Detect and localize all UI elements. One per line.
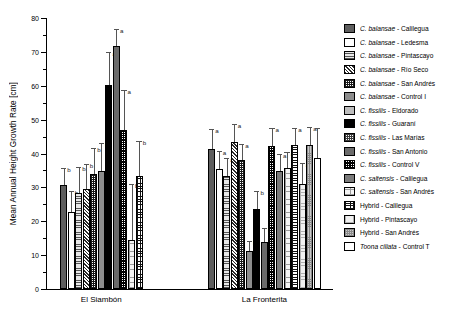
error-bar-cap <box>284 152 289 153</box>
significance-letter: b <box>97 147 100 153</box>
error-bar <box>64 168 65 185</box>
legend-swatch-icon <box>344 174 355 183</box>
error-bar <box>94 148 95 174</box>
error-bar-cap <box>315 128 320 129</box>
bar <box>291 145 298 289</box>
significance-letter: a <box>223 150 226 156</box>
legend-item: C. balansae - Río Seco <box>344 63 456 77</box>
error-bar <box>264 228 265 242</box>
bar <box>216 169 223 289</box>
legend-item: C. saltensis - Calilegua <box>344 172 456 186</box>
bar <box>75 193 82 289</box>
error-bar-cap <box>106 52 111 53</box>
error-bar <box>124 90 125 130</box>
legend-item: Toona ciliata - Control T <box>344 240 456 254</box>
legend-item-label: C. balansae - Calilegua <box>360 25 429 32</box>
chart-figure: Mean Annual Height Growth Rate [cm] 0102… <box>0 0 459 329</box>
legend-item: C. saltensis - San Andrés <box>344 185 456 199</box>
error-bar <box>280 154 281 171</box>
bar <box>276 171 283 289</box>
legend-swatch-icon <box>344 79 355 88</box>
bar <box>105 85 112 289</box>
error-bar-cap <box>84 164 89 165</box>
legend-swatch-icon <box>344 65 355 74</box>
legend-item-label: C. fissilis - San Antonio <box>360 148 427 155</box>
bar <box>238 160 245 289</box>
legend-item-label: C. fissilis - Las Marías <box>360 134 425 141</box>
error-bar-cap <box>232 124 237 125</box>
y-tick-label-40: 40 <box>31 150 39 157</box>
significance-letter: a <box>245 143 248 149</box>
error-bar-cap <box>91 148 96 149</box>
x-axis-label-0: El Siambón <box>81 295 122 304</box>
legend-item: C. balansae - Calilegua <box>344 22 456 36</box>
legend-item-label: Hybrid - San Andrés <box>360 229 419 236</box>
error-bar-cap <box>262 228 267 229</box>
legend-item: Hybrid - Pintascayo <box>344 212 456 226</box>
bar <box>128 240 135 289</box>
significance-letter: a <box>298 127 301 133</box>
legend-item-label: C. fissilis - Control V <box>360 161 419 168</box>
error-bar-cap <box>129 184 134 185</box>
error-bar-cap <box>239 144 244 145</box>
error-bar-cap <box>99 143 104 144</box>
bar <box>261 242 268 289</box>
legend-item-label: C. balansae - Control I <box>360 93 426 100</box>
error-bar-cap <box>307 127 312 128</box>
bar <box>268 146 275 289</box>
error-bar-cap <box>269 128 274 129</box>
bar <box>83 189 90 289</box>
error-bar <box>116 29 117 46</box>
y-tick-label-0: 0 <box>35 286 39 293</box>
error-bar <box>249 241 250 251</box>
y-tick-label-10: 10 <box>31 252 39 259</box>
bar-series-layer: bbbbbbaaabbaaaaabbbaaaaaa <box>46 18 333 289</box>
bar <box>98 171 105 289</box>
error-bar-cap <box>61 168 66 169</box>
legend-item: C. fissilis - Control V <box>344 158 456 172</box>
x-axis-label-1: La Fronterita <box>242 295 287 304</box>
bar <box>60 185 67 289</box>
significance-letter: b <box>90 163 93 169</box>
bar <box>120 130 127 289</box>
legend-swatch-icon <box>344 242 355 251</box>
error-bar <box>302 163 303 184</box>
y-tick-0 <box>41 289 46 290</box>
error-bar-cap <box>254 191 259 192</box>
error-bar <box>109 52 110 85</box>
significance-letter: b <box>260 190 263 196</box>
error-bar <box>287 152 288 168</box>
legend-item: C. balansae - Ledesma <box>344 36 456 50</box>
significance-letter: a <box>276 127 279 133</box>
significance-letter: a <box>283 153 286 159</box>
error-bar-cap <box>76 167 81 168</box>
legend-item: C. fissilis - Guaraní <box>344 117 456 131</box>
error-bar <box>295 128 296 145</box>
error-bar-cap <box>292 128 297 129</box>
legend-item-label: Hybrid - Calilegua <box>360 202 412 209</box>
legend-item-label: C. saltensis - San Andrés <box>360 188 434 195</box>
error-bar <box>101 143 102 171</box>
legend-swatch-icon <box>344 228 355 237</box>
error-bar <box>227 158 228 176</box>
bar <box>306 145 313 289</box>
y-tick-label-70: 70 <box>31 48 39 55</box>
significance-letter: a <box>120 28 123 34</box>
significance-letter: a <box>215 128 218 134</box>
y-axis-title: Mean Annual Height Growth Rate [cm] <box>6 18 20 290</box>
legend-swatch-icon <box>344 92 355 101</box>
x-axis-line <box>46 289 333 290</box>
legend-item: Hybrid - San Andrés <box>344 226 456 240</box>
legend-item-label: Hybrid - Pintascayo <box>360 216 417 223</box>
legend-item-label: C. balansae - San Andrés <box>360 80 435 87</box>
error-bar-cap <box>209 129 214 130</box>
bar <box>68 212 75 289</box>
significance-letter: b <box>143 140 146 146</box>
legend-swatch-icon <box>344 187 355 196</box>
error-bar-cap <box>277 154 282 155</box>
legend-swatch-icon <box>344 147 355 156</box>
legend-item: Hybrid - Calilegua <box>344 199 456 213</box>
bar <box>113 46 120 289</box>
error-bar <box>71 191 72 211</box>
error-bar <box>257 191 258 210</box>
